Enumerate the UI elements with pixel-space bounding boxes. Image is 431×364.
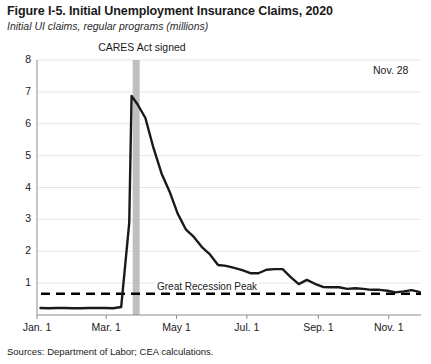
y-axis-tick-label: 5 bbox=[13, 149, 31, 161]
x-axis-tick-label: Jul. 1 bbox=[217, 321, 277, 333]
y-axis-tick-label: 2 bbox=[13, 244, 31, 256]
great-recession-peak-label: Great Recession Peak bbox=[155, 281, 259, 292]
x-axis-tick-label: Mar. 1 bbox=[76, 321, 136, 333]
x-axis-tick-label: Sep. 1 bbox=[288, 321, 348, 333]
y-axis-tick-label: 1 bbox=[13, 276, 31, 288]
figure-source-note: Sources: Department of Labor; CEA calcul… bbox=[7, 346, 213, 357]
figure-container: Figure I-5. Initial Unemployment Insuran… bbox=[0, 0, 431, 364]
y-axis-tick-label: 8 bbox=[13, 53, 31, 65]
claims-series-line bbox=[40, 96, 419, 308]
last-point-label: Nov. 28 bbox=[373, 64, 408, 76]
cares-act-annotation-label: CARES Act signed bbox=[98, 41, 186, 53]
x-axis-tick-label: May 1 bbox=[147, 321, 207, 333]
y-axis-tick-label: 7 bbox=[13, 85, 31, 97]
y-axis-tick-label: 4 bbox=[13, 181, 31, 193]
x-axis-tick-label: Nov. 1 bbox=[359, 321, 419, 333]
y-axis-tick-label: 3 bbox=[13, 212, 31, 224]
x-axis-tick-label: Jan. 1 bbox=[7, 321, 67, 333]
y-axis-tick-label: 6 bbox=[13, 117, 31, 129]
